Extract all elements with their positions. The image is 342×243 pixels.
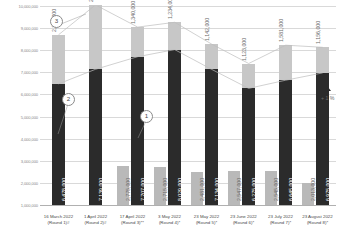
- x-axis-tick-label: 16 March 2022(Round 1)#: [40, 214, 77, 226]
- x-axis-tick-label: 23 August 2022(Round 8)*: [299, 214, 336, 226]
- bar-value-label-lower: 6,275,000: [251, 178, 257, 201]
- bar-value-label-secondary: 2,715,000: [162, 178, 168, 201]
- bar-value-label-lower: 6,645,000: [288, 178, 294, 201]
- bar-column[interactable]: [168, 6, 181, 205]
- bar-value-label-lower: 6,975,000: [325, 178, 331, 201]
- bar-column[interactable]: [89, 6, 102, 205]
- bar-segment-upper[interactable]: [316, 47, 329, 73]
- bar-value-label-upper: 1,123,000: [241, 37, 247, 60]
- y-axis-tick-label: 10,000,000: [19, 4, 39, 9]
- x-axis-tick-label: 17 April 2022(Round 3)**: [114, 214, 151, 226]
- callout-3[interactable]: 3: [50, 15, 63, 28]
- bar-value-label-lower: 7,139,000: [98, 178, 104, 201]
- bar-segment-upper[interactable]: [242, 64, 255, 89]
- y-axis-tick-label: 6,000,000: [21, 92, 38, 97]
- bar-value-label-upper: 1,581,000: [278, 19, 284, 42]
- bar-column-secondary[interactable]: [191, 6, 204, 205]
- x-axis-tick-label: 3 May 2022(Round 4)*: [151, 214, 188, 226]
- bar-column-secondary[interactable]: [154, 6, 167, 205]
- bar-segment-upper[interactable]: [89, 5, 102, 69]
- plot-area: 10,000,0009,000,0008,000,0007,000,0006,0…: [40, 6, 336, 205]
- bar-column-secondary[interactable]: [117, 6, 130, 205]
- percent-change-label: + 1 %: [321, 95, 334, 101]
- chart-container: 10,000,0009,000,0008,000,0007,000,0006,0…: [0, 0, 342, 243]
- bar-value-label-lower: 7,134,000: [214, 178, 220, 201]
- y-axis-tick-label: 7,000,000: [21, 70, 38, 75]
- y-axis-tick-label: 5,000,000: [21, 114, 38, 119]
- x-axis-tick-label: 23 May 2022(Round 5)*: [188, 214, 225, 226]
- bar-value-label-upper: 1,234,000: [167, 0, 173, 19]
- bar-column[interactable]: [242, 6, 255, 205]
- bar-value-label-secondary: 2,545,000: [273, 178, 279, 201]
- bar-value-label-upper: 1,142,000: [204, 18, 210, 41]
- y-axis-tick-label: 9,000,000: [21, 26, 38, 31]
- bar-segment-upper[interactable]: [279, 45, 292, 80]
- bar-value-label-secondary: 2,481,000: [199, 178, 205, 201]
- bar-column-secondary[interactable]: [265, 6, 278, 205]
- bar-value-label-secondary: 2,547,000: [236, 178, 242, 201]
- bar-segment-upper[interactable]: [168, 22, 181, 49]
- bar-column-secondary[interactable]: [228, 6, 241, 205]
- bar-columns: 6,478,0002,218,0007,139,0002,910,0007,70…: [40, 6, 336, 205]
- callout-2[interactable]: 2: [62, 93, 75, 106]
- bar-value-label-secondary: 2,013,000: [310, 178, 316, 201]
- y-axis-tick-label: 8,000,000: [21, 48, 38, 53]
- bar-value-label-upper: 2,910,000: [88, 0, 94, 2]
- bar-segment-upper[interactable]: [131, 27, 144, 57]
- bar-segment-upper[interactable]: [205, 44, 218, 69]
- bar-column[interactable]: [52, 6, 65, 205]
- x-axis-labels: 16 March 2022(Round 1)#1 April 2022(Roun…: [40, 210, 336, 240]
- bar-value-label-lower: 7,707,000: [140, 178, 146, 201]
- bar-segment-upper[interactable]: [52, 35, 65, 84]
- callout-1[interactable]: 1: [140, 110, 153, 123]
- bar-value-label-lower: 6,478,000: [61, 178, 67, 201]
- bar-value-label-lower: 8,029,000: [177, 178, 183, 201]
- y-axis-tick-label: 4,000,000: [21, 136, 38, 141]
- x-axis-tick-label: 1 April 2022(Round 2)#: [77, 214, 114, 226]
- y-axis-tick-label: 1,000,000: [21, 203, 38, 208]
- y-axis-tick-label: 3,000,000: [21, 158, 38, 163]
- y-axis-tick-label: 2,000,000: [21, 180, 38, 185]
- bar-value-label-upper: 1,156,000: [315, 21, 321, 44]
- x-axis-tick-label: 23 July 2022(Round 7)*: [262, 214, 299, 226]
- bar-value-label-secondary: 2,775,000: [125, 178, 131, 201]
- bar-value-label-upper: 1,340,000: [130, 1, 136, 24]
- bar-column-secondary[interactable]: [302, 6, 315, 205]
- bar-column[interactable]: [131, 6, 144, 205]
- x-axis-tick-label: 23 June 2022(Round 6)*: [225, 214, 262, 226]
- axis-baseline: [40, 205, 336, 206]
- trend-marker-icon: [325, 87, 331, 91]
